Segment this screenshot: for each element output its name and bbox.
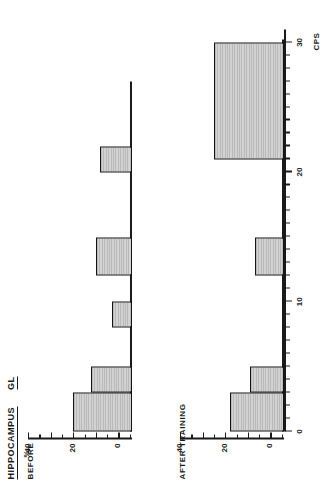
x-axis-tick [285,274,290,275]
histogram-bar [112,301,132,327]
x-axis-tick-label: 20 [295,164,304,180]
y-axis-tick [39,434,40,438]
y-axis-tick-label: 20 [68,443,77,457]
y-axis-tick [248,432,249,438]
y-axis-tick-label: 40 [23,443,32,457]
x-axis-tick-label: 0 [295,423,304,439]
histogram-bar [214,42,284,159]
x-axis-tick [285,430,292,431]
x-axis-tick [285,287,290,288]
y-axis-tick [96,432,97,438]
x-axis-tick [285,352,290,353]
histogram-bar [96,237,132,276]
histogram-bar [91,366,132,392]
histogram-bar [100,146,132,172]
x-axis-tick [285,106,290,107]
y-axis-tick-label: 40 [175,443,184,457]
figure-canvas: HIPPOCAMPUS GL BEFORE % 40 20 0 [0,0,328,497]
panel-before: BEFORE % 40 20 0 [0,0,152,497]
x-axis-tick [285,118,290,119]
y-axis-tick [225,432,226,438]
x-axis-tick [285,80,290,81]
x-axis-tick [285,326,290,327]
y-axis-tick [180,432,181,438]
x-axis-tick [285,131,290,132]
x-axis-tick [285,222,290,223]
y-axis-after-training [180,431,284,439]
y-axis-spine [180,438,284,440]
x-axis-tick [285,144,290,145]
histogram-bar [250,366,284,392]
y-axis-tick [73,432,74,438]
x-axis-tick [285,339,290,340]
x-axis-tick [285,300,292,301]
y-axis-tick-label: 20 [220,443,229,457]
x-axis-tick [285,378,290,379]
x-axis-tick [285,365,290,366]
y-axis-tick [107,434,108,438]
y-axis-tick [85,434,86,438]
x-axis-tick [285,391,290,392]
x-axis-tick [285,248,290,249]
histogram-bar [230,392,284,431]
y-axis-tick [259,434,260,438]
x-axis-tick [285,67,290,68]
x-axis-tick [285,313,290,314]
x-axis-tick [285,235,290,236]
y-axis-tick [282,434,283,438]
x-axis-title: CPS [312,32,321,50]
plot-area-before [28,29,132,431]
y-axis-before [28,431,132,439]
x-axis-tick [285,404,290,405]
x-axis-tick [285,54,290,55]
x-axis-tick-label: 30 [295,34,304,50]
y-axis-tick [118,432,119,438]
x-axis-tick [285,41,292,42]
x-axis-tick-label: 10 [295,293,304,309]
y-axis-tick [214,434,215,438]
x-axis-tick [285,157,290,158]
x-axis-tick [285,170,292,171]
y-axis-tick [191,434,192,438]
x-axis-tick [285,417,290,418]
x-axis-tick [285,93,290,94]
x-axis-tick [285,183,290,184]
panel-after-training: AFTER TRAINING 40 20 0 [152,0,328,497]
x-axis-tick [285,261,290,262]
y-axis-tick [130,434,131,438]
y-axis-tick [237,434,238,438]
y-axis-tick-label: 0 [265,443,274,457]
y-axis-tick [51,432,52,438]
x-axis-cps [284,29,294,431]
x-axis-spine [284,29,286,431]
y-axis-spine [28,438,132,440]
y-axis-tick [28,432,29,438]
y-axis-tick [62,434,63,438]
y-axis-tick-label: 0 [113,443,122,457]
x-axis-tick [285,209,290,210]
y-axis-tick [270,432,271,438]
y-axis-tick [203,432,204,438]
x-axis-tick [285,196,290,197]
plot-area-after-training [180,29,284,431]
histogram-bar [73,392,132,431]
histogram-bar [255,237,284,276]
